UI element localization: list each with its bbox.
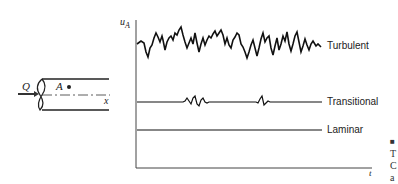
y-axis-label: uA [120,16,130,30]
y-axis-subscript: A [125,21,130,30]
turbulent-label: Turbulent [327,40,369,51]
pipe [18,79,110,110]
caption-line-4: a [390,172,397,184]
caption-fragment: ■ T C a [390,136,397,184]
caption-line-3: C [390,160,397,172]
flow-label-q: Q [22,80,30,92]
transitional-trace [137,96,322,106]
diagram-canvas [0,0,398,184]
pipe-axis-label-x: x [104,95,108,106]
caption-line-1: ■ [390,136,397,148]
transitional-label: Transitional [327,96,378,107]
point-label-a: A [56,80,63,92]
laminar-label: Laminar [327,124,363,135]
caption-line-2: T [390,148,397,160]
x-axis-label: t [369,168,372,178]
turbulent-trace [137,27,321,58]
